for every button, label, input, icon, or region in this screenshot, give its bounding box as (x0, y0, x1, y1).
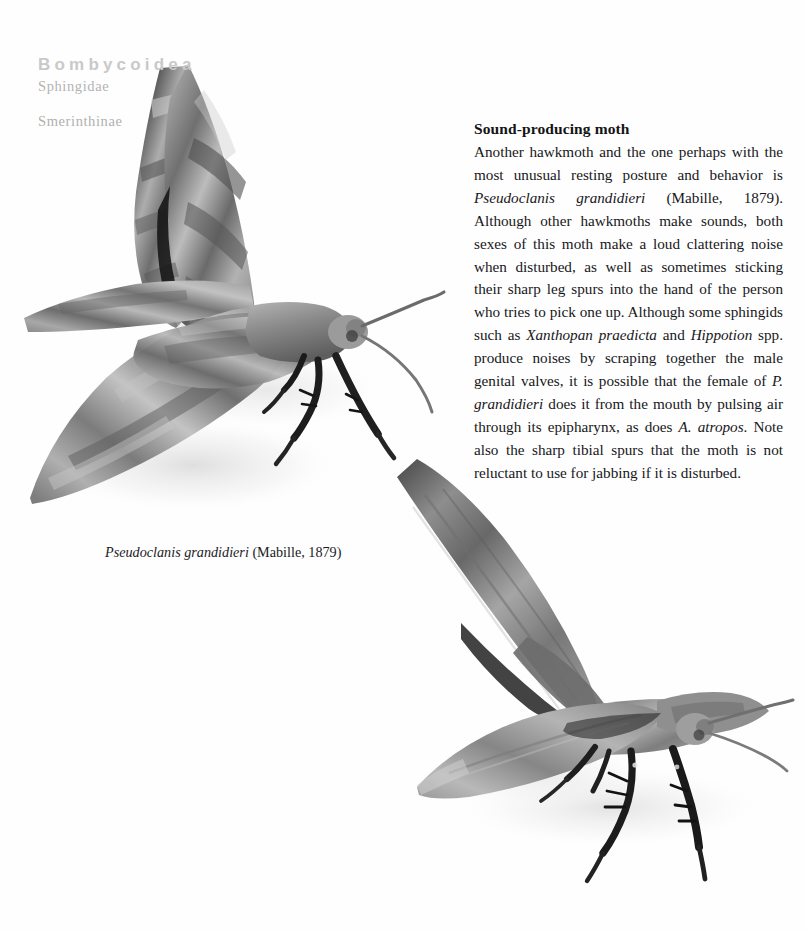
taxon-subfamily: Smerinthinae (38, 112, 196, 130)
specimen-photo-bottom (395, 455, 795, 905)
article-heading: Sound-producing moth (474, 118, 783, 141)
taxonomy-header: Bombycoidea Sphingidae Smerinthinae (38, 55, 196, 130)
specimen-photo-top (18, 60, 448, 530)
figure-caption: Pseudoclanis grandidieri (Mabille, 1879) (105, 543, 341, 561)
book-page: Bombycoidea Sphingidae Smerinthinae (0, 0, 805, 931)
taxon-family: Sphingidae (38, 77, 196, 95)
article-text-column: Sound-producing moth Another hawkmoth an… (474, 118, 783, 485)
article-body: Another hawkmoth and the one perhaps wit… (474, 141, 783, 485)
taxon-superfamily: Bombycoidea (38, 55, 196, 75)
